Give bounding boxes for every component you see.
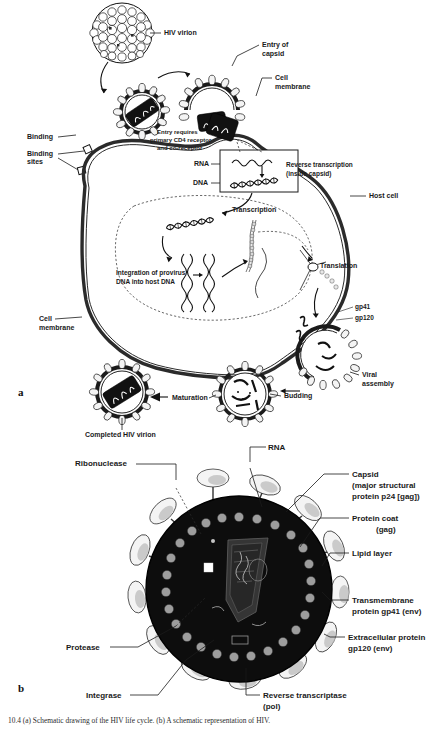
leader-rna-b <box>250 447 266 462</box>
panel-b: Ribonuclease RNA Capsid (major structura… <box>18 443 425 711</box>
dashed-nucleus-export <box>258 231 308 250</box>
label-entry-of-capsid-line2: capsid <box>262 50 284 58</box>
label-maturation: Maturation <box>172 394 208 401</box>
label-cell-membrane-top-line2: membrane <box>275 83 311 90</box>
leader-entry-of-capsid <box>232 45 259 66</box>
arrowhead-binding <box>101 88 107 93</box>
arrow-to-assembly <box>314 288 318 316</box>
label-gp41: gp41 <box>355 303 371 311</box>
label-binding: Binding <box>27 133 53 141</box>
label-binding-sites-line1: Binding <box>27 150 53 158</box>
label-binding-sites-line2: sites <box>27 158 43 165</box>
leader-cell-membrane-top <box>256 78 272 96</box>
label-reverse-transcription-line1: Reverse transcription <box>286 161 353 169</box>
ribonuclease-mark <box>211 539 215 543</box>
completed-virion <box>89 359 155 424</box>
assembling-virion <box>297 326 362 389</box>
arrowhead-assembly-to-budding <box>280 389 286 394</box>
arrow-to-translation <box>302 246 312 258</box>
label-rna-box: RNA <box>194 160 209 167</box>
panel-a: HIV virion <box>18 3 398 439</box>
label-capsid-line1: Capsid <box>352 470 379 479</box>
label-cell-membrane-top-line1: Cell <box>275 74 288 81</box>
label-integration-line1: Integration of provirus <box>116 269 186 277</box>
arrowhead-box-to-nucleus <box>222 211 227 217</box>
label-rna-b: RNA <box>268 443 286 452</box>
label-lipid-layer: Lipid layer <box>352 549 392 558</box>
leader-binding-sites-1 <box>58 151 84 154</box>
label-protease: Protease <box>66 643 100 652</box>
label-protein-coat-line1: Protein coat <box>352 514 399 523</box>
label-viral-assembly-line2: assembly <box>362 380 394 388</box>
leader-cell-membrane-left <box>55 317 82 319</box>
label-transmembrane-line2: protein gp41 (env) <box>352 607 422 616</box>
arrow-dna-to-mrna <box>222 262 246 277</box>
label-transcription: Transcription <box>232 206 276 214</box>
label-dna-box: DNA <box>193 179 208 186</box>
label-completed-hiv-virion: Completed HIV virion <box>85 431 156 439</box>
label-reverse-transcriptase-line1: Reverse transcriptase <box>263 691 347 700</box>
panel-b-letter: b <box>18 682 24 694</box>
label-ribonuclease: Ribonuclease <box>75 459 128 468</box>
label-reverse-transcription-line2: (inside capsid) <box>286 170 332 178</box>
leader-ribonuclease <box>136 464 176 480</box>
label-reverse-transcriptase-line2: (pol) <box>263 702 281 711</box>
label-viral-assembly-line1: Viral <box>362 371 377 378</box>
label-integration-line2: DNA into host DNA <box>116 278 175 285</box>
arrow-virion-to-binding <box>101 62 108 93</box>
host-dna-helix-2 <box>204 254 215 312</box>
label-budding: Budding <box>284 392 312 400</box>
leader-gp120 <box>336 318 353 320</box>
label-cell-membrane-left-line1: Cell <box>39 315 52 322</box>
label-entry-requires-line1: Entry requires <box>157 129 198 135</box>
label-protein-coat-line2: (gag) <box>376 525 396 534</box>
label-entry-requires-line3: and co-receptor <box>157 145 203 151</box>
label-integrase: Integrase <box>86 691 122 700</box>
panel-a-letter: a <box>18 386 24 398</box>
label-entry-of-capsid-line1: Entry of <box>262 41 289 49</box>
arrowhead-to-assembly <box>313 313 319 318</box>
leader-viral-assembly <box>350 372 359 375</box>
label-extracellular-line1: Extracellular protein <box>348 633 425 642</box>
mrna-thick-strand <box>255 248 266 298</box>
protease-mark <box>204 563 213 572</box>
label-transmembrane-line1: Transmembrane <box>352 596 414 605</box>
label-entry-requires-line2: primary CD4 receptor <box>150 137 212 143</box>
arrowhead-between-helices <box>199 273 203 277</box>
label-host-cell: Host cell <box>369 192 398 199</box>
leader-binding-sites-2 <box>58 158 80 171</box>
label-cell-membrane-left-line2: membrane <box>39 324 75 331</box>
mrna-transcript-icon <box>246 220 256 272</box>
hiv-life-cycle-figure: HIV virion <box>0 0 441 730</box>
arrow-integration <box>162 236 172 258</box>
label-extracellular-line2: gp120 (env) <box>348 644 393 653</box>
proviral-dna-icon <box>166 217 214 231</box>
hiv-virion-geodesic-icon <box>90 3 154 63</box>
label-capsid-line3: protein p24 [gag]) <box>352 492 420 501</box>
leader-binding <box>58 135 76 137</box>
label-hiv-virion: HIV virion <box>164 29 197 36</box>
label-gp120: gp120 <box>355 314 374 322</box>
host-dna-helix-1 <box>182 254 193 312</box>
label-capsid-line2: (major structural <box>352 481 416 490</box>
label-translation: Translation <box>320 262 357 269</box>
figure-caption: 10.4 (a) Schematic drawing of the HIV li… <box>8 716 438 730</box>
